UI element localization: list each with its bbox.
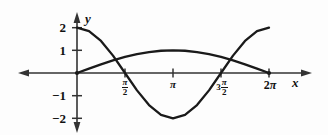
trig-graph-figure: 2 1 −1 −2 π 2 π 3 π 2 2π y x xyxy=(0,0,328,135)
x-tick-label-two-pi: 2π xyxy=(256,79,284,91)
y-tick-label-minus-2: −2 xyxy=(40,112,66,125)
x-tick-label-three-pi-over-2: 3 π 2 xyxy=(208,78,236,98)
fraction-pi-over-2: π 2 xyxy=(221,78,228,98)
y-tick-label-1: 1 xyxy=(48,44,66,57)
y-tick-label-2: 2 xyxy=(48,21,66,34)
x-axis-label: x xyxy=(292,76,299,89)
two-pi-symbol: π xyxy=(270,78,277,92)
y-tick-label-minus-1: −1 xyxy=(40,89,66,102)
fraction-pi-over-2: π 2 xyxy=(122,78,129,98)
x-tick-label-pi-over-2: π 2 xyxy=(114,78,136,98)
fraction-denominator: 2 xyxy=(122,88,129,97)
x-tick-label-pi: π xyxy=(163,79,183,90)
y-axis-label: y xyxy=(85,12,91,25)
fraction-denominator: 2 xyxy=(221,88,228,97)
